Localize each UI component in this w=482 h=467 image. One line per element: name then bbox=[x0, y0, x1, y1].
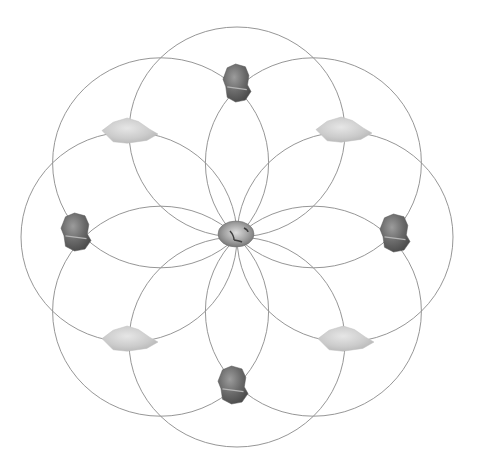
lower-left-stone-icon bbox=[102, 326, 158, 351]
stone-set bbox=[61, 64, 410, 404]
grid-circle bbox=[129, 237, 345, 447]
grid-circle bbox=[237, 132, 453, 342]
grid-circle bbox=[129, 27, 345, 237]
bottom-stone-icon bbox=[218, 366, 248, 404]
grid-circle bbox=[21, 132, 237, 342]
upper-left-stone-icon bbox=[102, 118, 158, 143]
lower-right-stone-icon bbox=[318, 326, 374, 351]
crystal-grid-diagram bbox=[0, 0, 482, 467]
right-stone-icon bbox=[380, 214, 410, 252]
flower-of-life-grid bbox=[0, 0, 482, 467]
left-stone-icon bbox=[61, 213, 91, 251]
center-stone-icon bbox=[218, 221, 254, 247]
upper-right-stone-icon bbox=[316, 117, 372, 142]
top-stone-icon bbox=[223, 64, 251, 102]
